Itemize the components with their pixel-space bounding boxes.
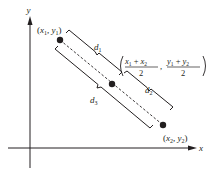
formula-y-numerator: y1 + y2: [166, 56, 189, 67]
x-axis-arrow-icon: [188, 146, 197, 151]
point-2-label: (x2, y2): [163, 133, 188, 144]
y-axis-label: y: [26, 5, 31, 15]
formula-x-numerator: x1 + x2: [124, 56, 147, 67]
formula-x-denominator: 2: [139, 68, 143, 78]
distance-d2-label: d2: [145, 85, 153, 96]
midpoint-formula: x1 + x2 2 , y1 + y2 2: [121, 56, 206, 78]
distance-d3-label: d3: [90, 95, 98, 106]
x-axis: x: [8, 143, 203, 153]
point-1-label: (x1, y1): [37, 25, 62, 36]
formula-y-denominator: 2: [181, 68, 185, 78]
distance-d1-label: d1: [94, 42, 102, 53]
formula-comma: ,: [160, 61, 162, 71]
y-axis: y: [26, 5, 33, 168]
midpoint: [109, 81, 115, 87]
point-2: [160, 122, 166, 128]
point-1: [57, 37, 63, 43]
y-axis-arrow-icon: [28, 16, 33, 25]
right-paren: [203, 56, 206, 76]
midpoint-diagram: y x (x1, y1) (x2, y2) d1 d2 d3 x1: [0, 0, 210, 173]
brace-d1: [66, 30, 122, 75]
x-axis-label: x: [198, 143, 203, 153]
